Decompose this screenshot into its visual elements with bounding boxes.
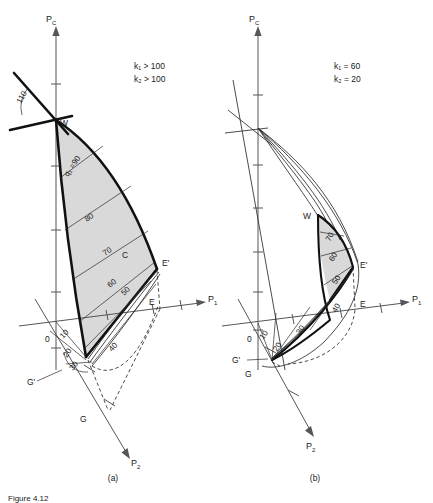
panel-a-contour-label-20: 20: [61, 346, 74, 359]
panel-a-dashed-e-g: [110, 309, 160, 410]
panel-a-horizontal-axis-arrow: [196, 300, 206, 307]
panel-a-point-c-label: C: [122, 250, 128, 260]
panel-a-point-gprime-label: G': [27, 377, 36, 387]
panel-b-fan-curve-4: [258, 128, 318, 216]
panel-a-vertical-axis-label: PC: [46, 14, 57, 26]
panel-b-line-shallow: [228, 110, 272, 145]
panel-b-dashed-ee: [353, 267, 355, 308]
panel-b-fan-40: [310, 302, 330, 330]
panel-a-depth-axis-arrow: [122, 448, 131, 459]
panel-a-daxis-tick-1: [84, 365, 95, 372]
panel-b-gprime-leader: [247, 359, 268, 360]
panel-a-contour-label-40: 40: [107, 340, 120, 353]
panel-a: PC P1 P2 0 W E' E G' G C 110 q₁ =90 80 7…: [10, 14, 218, 483]
panel-a-horizontal-axis-label: P1: [208, 294, 218, 306]
figure-svg: PC P1 P2 0 W E' E G' G C 110 q₁ =90 80 7…: [0, 0, 433, 503]
panel-b-contour-label-30: 30: [294, 323, 307, 336]
panel-b-point-w-label: W: [303, 211, 311, 221]
panel-b-vertical-axis-label: PC: [249, 14, 260, 26]
figure-caption: Figure 4.12: [8, 494, 49, 503]
panel-a-shaded-region: [56, 120, 156, 357]
figure-container: PC P1 P2 0 W E' E G' G C 110 q₁ =90 80 7…: [0, 0, 433, 503]
panel-b-point-g-label: G: [245, 369, 252, 379]
panel-a-label: (a): [108, 473, 119, 483]
panel-b: PC P1 P2 0 W E' E G' G 70 60 50 40 30 20…: [222, 14, 422, 483]
panel-b-fan-10: [258, 323, 272, 360]
panel-b-haxis-tick-3: [380, 303, 382, 313]
panel-a-contour-label-30: 30: [67, 359, 80, 372]
panel-b-horizontal-axis-arrow: [400, 300, 410, 307]
panel-b-origin-label: 0: [247, 334, 252, 344]
panel-a-point-w-label: W: [60, 118, 68, 128]
panel-a-angle-label: 110: [15, 89, 29, 105]
panel-b-haxis-tick-1: [292, 314, 294, 324]
panel-a-condition-2: k₂ > 100: [134, 74, 166, 84]
panel-b-vertical-axis-arrow: [254, 26, 261, 36]
panel-b-label: (b): [310, 473, 321, 483]
panel-a-contour-label-10: 10: [58, 327, 71, 340]
panel-a-dashed-g-vert: [88, 360, 108, 410]
panel-b-horizontal-axis-label: P1: [412, 294, 422, 306]
panel-b-point-eprime-label: E': [360, 260, 368, 270]
panel-b-depth-axis: [238, 299, 310, 430]
panel-a-condition-1: k₁ > 100: [134, 61, 165, 71]
panel-b-depth-axis-arrow: [305, 426, 314, 437]
panel-a-origin-label: 0: [45, 334, 50, 344]
panel-a-point-e-label: E: [149, 297, 155, 307]
panel-b-condition-1: k₁ = 60: [334, 61, 361, 71]
panel-a-point-eprime-label: E': [162, 258, 170, 268]
panel-b-point-e-label: E: [360, 299, 366, 309]
panel-a-depth-axis-label: P2: [131, 458, 141, 470]
panel-b-point-gprime-label: G': [232, 355, 241, 365]
panel-a-vertical-axis-arrow: [52, 26, 59, 36]
panel-b-depth-axis-label: P2: [306, 441, 316, 453]
panel-a-point-g-label: G: [80, 414, 87, 424]
panel-a-gprime-leader: [37, 370, 62, 381]
panel-b-condition-2: k₂ = 20: [334, 74, 361, 84]
